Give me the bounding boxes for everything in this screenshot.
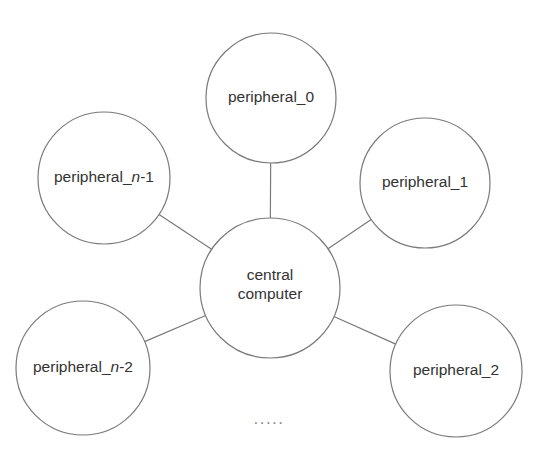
peripheral-1-label-prefix: peripheral_1 (382, 173, 468, 190)
ellipsis-label: ..... (253, 409, 284, 428)
peripheral-n-minus-1-label-suffix: -1 (140, 168, 154, 185)
nodes-layer: centralcomputerperipheral_0peripheral_1p… (16, 33, 522, 437)
peripheral-1-label: peripheral_1 (382, 173, 468, 190)
star-topology-diagram: centralcomputerperipheral_0peripheral_1p… (0, 0, 545, 457)
peripheral-n-minus-2-label-variable: n (111, 358, 120, 375)
peripheral-0-label-prefix: peripheral_0 (228, 88, 315, 105)
topology-canvas: centralcomputerperipheral_0peripheral_1p… (0, 0, 545, 457)
peripheral-n-minus-1-label: peripheral_n-1 (54, 168, 154, 185)
peripheral-2-label: peripheral_2 (413, 361, 499, 378)
central-computer-label-line2: computer (238, 285, 303, 302)
peripheral-n-minus-1-label-variable: n (132, 168, 141, 185)
edge-center-peripheral-n-minus-2 (145, 316, 206, 342)
central-computer-label-line1: central (247, 266, 294, 283)
edge-center-peripheral-n-minus-1 (159, 214, 212, 249)
edge-center-peripheral-2 (334, 317, 396, 345)
peripheral-n-minus-1-label-prefix: peripheral_ (54, 168, 132, 185)
peripheral-2-label-prefix: peripheral_2 (413, 361, 499, 378)
peripheral-0-label: peripheral_0 (228, 88, 315, 105)
peripheral-n-minus-2-label-prefix: peripheral_ (33, 358, 111, 375)
peripheral-n-minus-2-label-suffix: -2 (119, 358, 133, 375)
edge-center-peripheral-1 (328, 219, 371, 248)
peripheral-n-minus-2-label: peripheral_n-2 (33, 358, 133, 375)
